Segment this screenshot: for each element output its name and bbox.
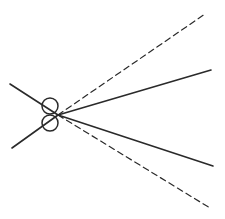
blade-lines: [10, 14, 213, 208]
lower-dashed-line: [58, 115, 210, 208]
left-upper-arm: [10, 84, 58, 115]
scissors-diagram: [0, 0, 225, 219]
upper-dashed-line: [58, 14, 205, 115]
lower-finger-ring-icon: [42, 115, 58, 131]
finger-rings: [42, 98, 58, 131]
lower-solid-line: [58, 115, 213, 166]
upper-solid-line: [58, 70, 211, 115]
